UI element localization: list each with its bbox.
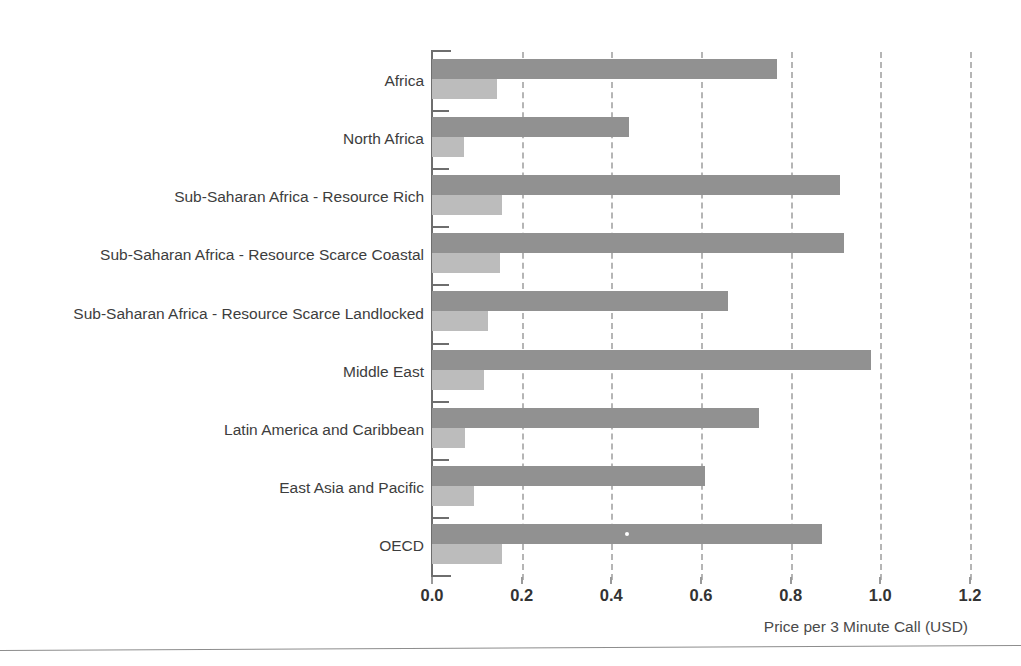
bar-series-dark	[432, 59, 777, 79]
bar-series-light	[432, 195, 502, 215]
y-tick-3	[433, 226, 449, 228]
bar-series-dark	[432, 175, 840, 195]
bar-series-dark	[432, 117, 629, 137]
bar-series-dark	[432, 291, 728, 311]
category-label: North Africa	[0, 131, 424, 147]
y-tick-5	[433, 343, 449, 345]
bar-series-dark	[432, 466, 705, 486]
x-tick-0.8	[790, 577, 792, 584]
bar-chart: AfricaNorth AfricaSub-Saharan Africa - R…	[0, 0, 1021, 666]
category-label: OECD	[0, 538, 424, 554]
bar-series-dark	[432, 408, 759, 428]
category-label: Sub-Saharan Africa - Resource Rich	[0, 189, 424, 205]
category-label: East Asia and Pacific	[0, 480, 424, 496]
x-tick-0.4	[610, 577, 612, 584]
bar-series-light	[432, 137, 464, 157]
x-tick-1.0	[879, 577, 881, 584]
x-tick-label-0.0: 0.0	[397, 586, 467, 605]
y-tick-2	[433, 168, 449, 170]
category-label: Latin America and Caribbean	[0, 422, 424, 438]
bar-series-light	[432, 79, 497, 99]
bar-series-dark	[432, 233, 844, 253]
x-tick-0.0	[431, 577, 433, 584]
bottom-divider	[0, 645, 1021, 651]
y-tick-8	[433, 517, 449, 519]
x-tick-label-0.8: 0.8	[756, 586, 826, 605]
category-label: Sub-Saharan Africa - Resource Scarce Coa…	[0, 247, 424, 263]
x-tick-label-0.6: 0.6	[666, 586, 736, 605]
category-label: Africa	[0, 73, 424, 89]
scan-artifact-speck	[625, 532, 629, 536]
x-tick-0.2	[521, 577, 523, 584]
bar-series-light	[432, 253, 500, 273]
x-tick-1.2	[969, 577, 971, 584]
x-tick-label-0.2: 0.2	[487, 586, 557, 605]
x-tick-label-1.0: 1.0	[845, 586, 915, 605]
x-tick-0.6	[700, 577, 702, 584]
y-axis-top-cap	[433, 50, 451, 52]
x-axis-title: Price per 3 Minute Call (USD)	[764, 618, 968, 636]
bar-series-light	[432, 370, 484, 390]
y-tick-1	[433, 110, 449, 112]
bar-series-light	[432, 486, 474, 506]
x-tick-label-1.2: 1.2	[935, 586, 1005, 605]
y-tick-4	[433, 284, 449, 286]
bar-series-dark	[432, 350, 871, 370]
category-label: Middle East	[0, 364, 424, 380]
y-tick-6	[433, 401, 449, 403]
bar-series-light	[432, 311, 488, 331]
bar-series-light	[432, 544, 502, 564]
y-tick-7	[433, 459, 449, 461]
category-label: Sub-Saharan Africa - Resource Scarce Lan…	[0, 306, 424, 322]
bar-series-light	[432, 428, 465, 448]
y-axis-bottom-cap	[433, 575, 451, 577]
x-tick-label-0.4: 0.4	[576, 586, 646, 605]
